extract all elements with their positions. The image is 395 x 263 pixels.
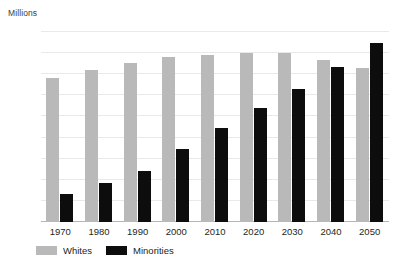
bar-group-1990: 1990 bbox=[124, 32, 152, 222]
legend-item-minorities[interactable]: Minorities bbox=[106, 245, 174, 256]
bar-group-1970: 1970 bbox=[46, 32, 74, 222]
bar-chart-plot-area: 0255075100125150175200225197019801990200… bbox=[41, 32, 389, 222]
bar-minorities-1990[interactable] bbox=[138, 171, 151, 222]
y-axis-units-label: Millions bbox=[8, 8, 37, 18]
bar-minorities-1970[interactable] bbox=[60, 194, 73, 222]
bar-minorities-2000[interactable] bbox=[176, 149, 189, 222]
bar-whites-2050[interactable] bbox=[356, 68, 369, 222]
bar-whites-2040[interactable] bbox=[317, 60, 330, 222]
bar-minorities-2030[interactable] bbox=[292, 89, 305, 222]
x-axis-tick-2000: 2000 bbox=[166, 226, 187, 237]
x-axis-tick-2030: 2030 bbox=[282, 226, 303, 237]
legend-item-whites[interactable]: Whites bbox=[36, 245, 92, 256]
bar-whites-1990[interactable] bbox=[124, 63, 137, 222]
x-axis-tick-2040: 2040 bbox=[320, 226, 341, 237]
legend-label-whites: Whites bbox=[63, 245, 92, 256]
bar-whites-2000[interactable] bbox=[162, 57, 175, 223]
bar-group-2020: 2020 bbox=[240, 32, 268, 222]
x-axis-tick-1980: 1980 bbox=[88, 226, 109, 237]
bar-whites-2020[interactable] bbox=[240, 53, 253, 222]
bar-whites-2010[interactable] bbox=[201, 55, 214, 222]
bar-group-1980: 1980 bbox=[85, 32, 113, 222]
bar-group-2000: 2000 bbox=[162, 32, 190, 222]
legend-label-minorities: Minorities bbox=[133, 245, 174, 256]
cut-off-title-strip bbox=[0, 0, 395, 7]
x-axis-tick-2050: 2050 bbox=[359, 226, 380, 237]
bar-minorities-2010[interactable] bbox=[215, 128, 228, 222]
bar-minorities-2050[interactable] bbox=[370, 43, 383, 222]
bar-minorities-1980[interactable] bbox=[99, 183, 112, 222]
chart-legend: WhitesMinorities bbox=[36, 245, 174, 256]
bar-minorities-2020[interactable] bbox=[254, 108, 267, 222]
bar-group-2030: 2030 bbox=[278, 32, 306, 222]
bar-whites-1980[interactable] bbox=[85, 70, 98, 222]
legend-swatch-whites bbox=[36, 246, 57, 255]
bar-whites-1970[interactable] bbox=[46, 78, 59, 222]
bar-whites-2030[interactable] bbox=[278, 53, 291, 222]
x-axis-tick-1990: 1990 bbox=[127, 226, 148, 237]
bar-group-2050: 2050 bbox=[356, 32, 384, 222]
bar-group-2040: 2040 bbox=[317, 32, 345, 222]
x-axis-tick-1970: 1970 bbox=[50, 226, 71, 237]
bar-minorities-2040[interactable] bbox=[331, 67, 344, 222]
x-axis-tick-2020: 2020 bbox=[243, 226, 264, 237]
bar-group-2010: 2010 bbox=[201, 32, 229, 222]
legend-swatch-minorities bbox=[106, 246, 127, 255]
x-axis-tick-2010: 2010 bbox=[204, 226, 225, 237]
